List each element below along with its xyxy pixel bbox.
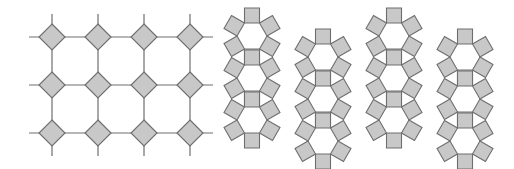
square-octagon-tiling (29, 14, 213, 156)
square-tile (39, 24, 65, 50)
square-tile (177, 72, 203, 98)
square-tile (85, 120, 111, 146)
square-tile (224, 36, 244, 56)
square-tile (387, 133, 402, 148)
square-tile (331, 37, 351, 57)
square-tile (316, 71, 331, 86)
square-tile (331, 141, 351, 161)
square-tile (402, 16, 422, 36)
square-tile (437, 121, 457, 141)
square-tile (245, 92, 260, 107)
square-tile (402, 120, 422, 140)
square-tile (224, 120, 244, 140)
square-tile (224, 100, 244, 120)
square-tile (366, 16, 386, 36)
square-tile (458, 29, 473, 44)
square-tile (224, 58, 244, 78)
square-tile (224, 16, 244, 36)
square-tile (131, 24, 157, 50)
square-tile (260, 16, 280, 36)
square-tile (85, 24, 111, 50)
square-tile (473, 79, 493, 99)
tiling-figure (0, 0, 514, 169)
square-tile (402, 100, 422, 120)
square-tile (331, 121, 351, 141)
square-tile (131, 72, 157, 98)
square-tile (177, 24, 203, 50)
square-tile (366, 100, 386, 120)
square-tile (331, 57, 351, 77)
square-tile (331, 79, 351, 99)
square-tile (245, 50, 260, 65)
square-tile (39, 72, 65, 98)
square-tile (316, 113, 331, 128)
square-tile (85, 72, 111, 98)
square-tile (437, 79, 457, 99)
square-tile (473, 99, 493, 119)
square-tile (366, 58, 386, 78)
square-tile (458, 71, 473, 86)
square-tile (295, 37, 315, 57)
square-tile (245, 8, 260, 23)
square-tile (458, 154, 473, 169)
square-tile (437, 37, 457, 57)
square-tile (260, 36, 280, 56)
square-tile (366, 78, 386, 98)
square-tile (437, 57, 457, 77)
square-tile (402, 36, 422, 56)
square-tile (260, 58, 280, 78)
square-tile (295, 57, 315, 77)
square-tile (437, 141, 457, 161)
square-tile (473, 57, 493, 77)
square-tile (295, 79, 315, 99)
square-tile (366, 120, 386, 140)
square-tile (131, 120, 157, 146)
square-tile (387, 92, 402, 107)
square-tile (245, 133, 260, 148)
square-tile (366, 36, 386, 56)
square-tile (316, 154, 331, 169)
square-tile (260, 78, 280, 98)
square-tile (260, 120, 280, 140)
square-tile (387, 8, 402, 23)
rhombitrihexagonal-tiling (224, 8, 493, 169)
square-tile (295, 141, 315, 161)
square-tile (260, 100, 280, 120)
square-tile (39, 120, 65, 146)
square-tile (402, 78, 422, 98)
square-tile (177, 120, 203, 146)
square-tile (437, 99, 457, 119)
square-tile (473, 141, 493, 161)
square-tile (295, 99, 315, 119)
square-tile (473, 121, 493, 141)
square-tile (458, 113, 473, 128)
square-tile (387, 50, 402, 65)
square-tile (331, 99, 351, 119)
square-tile (473, 37, 493, 57)
square-tile (316, 29, 331, 44)
square-tile (295, 121, 315, 141)
square-tile (224, 78, 244, 98)
square-tile (402, 58, 422, 78)
